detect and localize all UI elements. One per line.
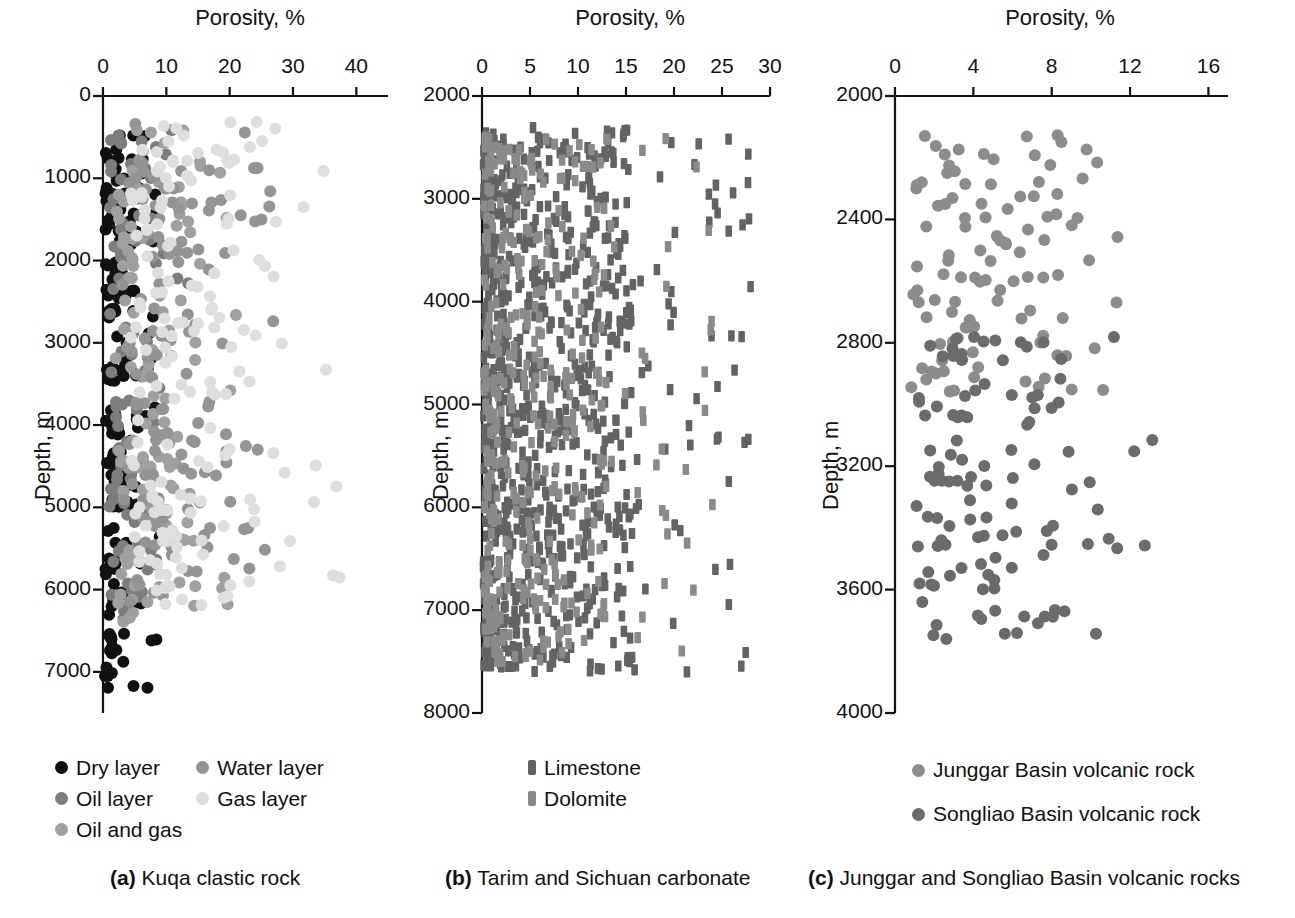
legend-item-gas-layer: Gas layer [196, 783, 324, 814]
y-tick-label: 7000 [372, 596, 470, 620]
y-tick-label: 3200 [785, 452, 883, 476]
dry-layer-marker-icon [55, 761, 68, 774]
y-tick-label: 5000 [372, 391, 470, 415]
panel-b-caption-text: Tarim and Sichuan carbonate [477, 866, 750, 889]
y-tick-label: 3000 [372, 185, 470, 209]
panel-a: Porosity, % Depth, m Dry layer Oil layer… [0, 0, 420, 918]
junggar-marker-icon [912, 764, 925, 777]
y-tick-label: 3000 [0, 329, 91, 353]
y-tick-label: 3600 [785, 576, 883, 600]
legend-item-songliao: Songliao Basin volcanic rock [912, 792, 1200, 836]
legend-label: Dolomite [544, 787, 627, 811]
panel-a-caption: (a) Kuqa clastic rock [110, 866, 300, 890]
legend-item-dolomite: Dolomite [528, 783, 641, 814]
panel-b: Porosity, % Depth, m Limestone Dolomite … [400, 0, 800, 918]
x-tick-label: 4 [943, 54, 1003, 78]
legend-label: Oil layer [76, 787, 153, 811]
panel-c-plot [790, 0, 1295, 760]
y-tick-label: 2000 [785, 82, 883, 106]
x-tick-label: 40 [326, 54, 386, 78]
legend-label: Junggar Basin volcanic rock [933, 758, 1194, 782]
oil-and-gas-marker-icon [55, 823, 68, 836]
legend-label: Water layer [217, 756, 324, 780]
legend-item-oil-layer: Oil layer [55, 783, 182, 814]
panel-a-caption-tag: (a) [110, 866, 136, 889]
oil-layer-marker-icon [55, 792, 68, 805]
gas-layer-marker-icon [196, 792, 209, 805]
y-tick-label: 4000 [0, 411, 91, 435]
water-layer-marker-icon [196, 761, 209, 774]
x-tick-label: 8 [1022, 54, 1082, 78]
panel-c-caption-tag: (c) [808, 866, 834, 889]
legend-label: Oil and gas [76, 818, 182, 842]
y-tick-label: 2800 [785, 329, 883, 353]
x-tick-label: 16 [1178, 54, 1238, 78]
y-tick-label: 8000 [372, 699, 470, 723]
y-tick-label: 2000 [0, 247, 91, 271]
legend-item-dry-layer: Dry layer [55, 752, 182, 783]
y-tick-label: 2000 [372, 82, 470, 106]
panel-b-plot [400, 0, 800, 760]
panel-c-caption: (c) Junggar and Songliao Basin volcanic … [808, 866, 1240, 890]
limestone-marker-icon [528, 760, 536, 775]
y-tick-label: 1000 [0, 164, 91, 188]
panel-b-caption-tag: (b) [445, 866, 472, 889]
series-2-points [911, 331, 1159, 645]
legend-item-oil-and-gas: Oil and gas [55, 814, 182, 845]
y-tick-label: 2400 [785, 205, 883, 229]
x-tick-label: 10 [136, 54, 196, 78]
legend-label: Dry layer [76, 756, 160, 780]
panel-a-legend: Dry layer Oil layer Oil and gas Water la… [55, 752, 324, 845]
legend-item-water-layer: Water layer [196, 752, 324, 783]
legend-item-junggar: Junggar Basin volcanic rock [912, 748, 1200, 792]
legend-label: Songliao Basin volcanic rock [933, 802, 1200, 826]
panel-b-legend: Limestone Dolomite [528, 752, 641, 814]
legend-item-limestone: Limestone [528, 752, 641, 783]
songliao-marker-icon [912, 808, 925, 821]
panel-a-caption-text: Kuqa clastic rock [142, 866, 301, 889]
dolomite-marker-icon [528, 791, 536, 806]
x-tick-label: 0 [865, 54, 925, 78]
x-tick-label: 12 [1100, 54, 1160, 78]
series-2-points [481, 132, 716, 667]
legend-label: Gas layer [217, 787, 307, 811]
panel-c-caption-text: Junggar and Songliao Basin volcanic rock… [840, 866, 1240, 889]
y-tick-label: 5000 [0, 493, 91, 517]
y-tick-label: 0 [0, 82, 91, 106]
y-tick-label: 6000 [372, 493, 470, 517]
panel-c-legend: Junggar Basin volcanic rock Songliao Bas… [912, 748, 1200, 836]
x-tick-label: 20 [200, 54, 260, 78]
x-tick-label: 30 [263, 54, 323, 78]
panel-b-caption: (b) Tarim and Sichuan carbonate [445, 866, 750, 890]
y-tick-label: 7000 [0, 658, 91, 682]
panel-c: Porosity, % Depth, m Junggar Basin volca… [790, 0, 1295, 918]
x-tick-label: 0 [73, 54, 133, 78]
legend-label: Limestone [544, 756, 641, 780]
y-tick-label: 4000 [372, 288, 470, 312]
y-tick-label: 6000 [0, 576, 91, 600]
panel-a-plot [0, 0, 420, 760]
y-tick-label: 4000 [785, 699, 883, 723]
